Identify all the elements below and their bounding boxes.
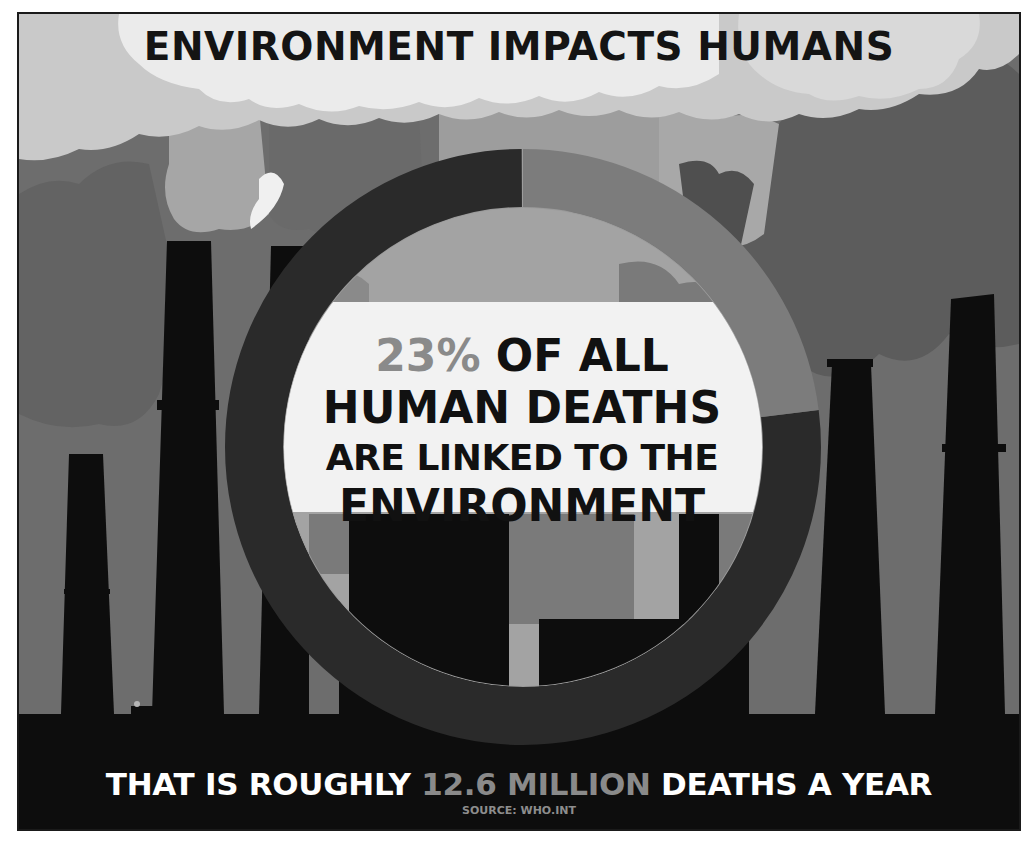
banner-line-4: ENVIRONMENT [289,484,755,528]
source-credit: SOURCE: WHO.INT [19,804,1019,817]
deaths-per-year-statement: THAT IS ROUGHLY 12.6 MILLION DEATHS A YE… [19,766,1019,802]
banner-line-1-rest: OF ALL [481,330,669,381]
banner-line-1: 23% OF ALL [289,334,755,378]
percent-value: 23% [375,330,480,381]
deaths-count-highlight: 12.6 MILLION [421,766,650,802]
infographic-frame: ENVIRONMENT IMPACTS HUMANS 23% OF ALL HU… [17,12,1021,831]
statement-suffix: DEATHS A YEAR [651,766,933,802]
statement-prefix: THAT IS ROUGHLY [106,766,421,802]
page-title: ENVIRONMENT IMPACTS HUMANS [19,24,1019,69]
banner-line-3: ARE LINKED TO THE [289,440,755,476]
banner-line-2: HUMAN DEATHS [289,386,755,430]
